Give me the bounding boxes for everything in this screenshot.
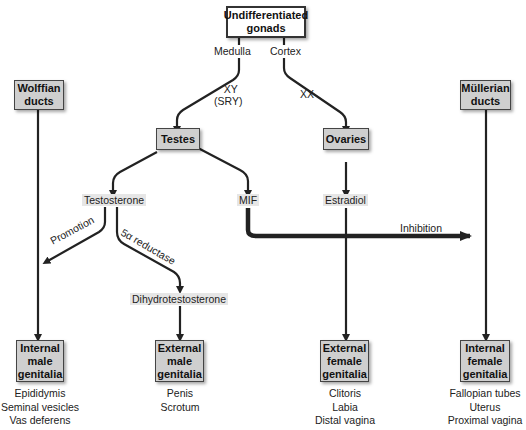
list-item: Distal vagina <box>305 414 385 428</box>
box-line: Internal <box>465 342 505 355</box>
internal-female-genitalia-box: Internal female genitalia <box>460 340 510 382</box>
box-line: female <box>468 355 503 368</box>
list-item: Labia <box>305 401 385 415</box>
mullerian-ducts-box: Müllerian ducts <box>460 80 511 110</box>
external-male-list: Penis Scrotum <box>140 387 220 414</box>
box-line: gonads <box>246 22 285 35</box>
ovaries-box: Ovaries <box>323 128 369 150</box>
box-line: male <box>27 355 52 368</box>
box-line: male <box>167 355 192 368</box>
box-line: External <box>323 342 366 355</box>
list-item: Proximal vagina <box>440 414 526 428</box>
testosterone-label: Testosterone <box>82 194 146 206</box>
list-item: Uterus <box>440 401 526 415</box>
xx-label: XX <box>300 88 314 100</box>
xy-label: XY (SRY) <box>214 83 242 107</box>
box-line: genitalia <box>18 368 63 381</box>
dht-label: Dihydrotestosterone <box>130 293 228 305</box>
box-line: genitalia <box>157 368 202 381</box>
mif-label: MIF <box>237 194 259 206</box>
list-item: Fallopian tubes <box>440 387 526 401</box>
wolffian-ducts-box: Wolffian ducts <box>14 80 64 110</box>
medulla-label: Medulla <box>214 45 251 57</box>
external-female-list: Clitoris Labia Distal vagina <box>305 387 385 428</box>
box-line: Wolffian <box>17 82 60 95</box>
list-item: Penis <box>140 387 220 401</box>
box-line: Müllerian <box>461 82 509 95</box>
box-line: External <box>158 342 201 355</box>
diagram-connectors <box>0 0 526 430</box>
inhibition-label: Inhibition <box>400 222 442 234</box>
testes-box: Testes <box>156 128 200 150</box>
box-line: ducts <box>24 95 53 108</box>
internal-male-list: Epididymis Seminal vesicles Vas deferens <box>0 387 80 428</box>
box-line: ducts <box>471 95 500 108</box>
internal-female-list: Fallopian tubes Uterus Proximal vagina <box>440 387 526 428</box>
sry-text: (SRY) <box>214 95 242 107</box>
list-item: Vas deferens <box>0 414 80 428</box>
undifferentiated-gonads-box: Undifferentiated gonads <box>226 6 306 38</box>
list-item: Seminal vesicles <box>0 401 80 415</box>
external-male-genitalia-box: External male genitalia <box>155 340 204 382</box>
estradiol-label: Estradiol <box>323 194 368 206</box>
box-line: genitalia <box>463 368 508 381</box>
list-item: Clitoris <box>305 387 385 401</box>
list-item: Epididymis <box>0 387 80 401</box>
external-female-genitalia-box: External female genitalia <box>320 340 369 382</box>
box-line: Undifferentiated <box>224 9 308 22</box>
box-line: Internal <box>20 342 60 355</box>
xy-text: XY <box>214 83 242 95</box>
box-line: genitalia <box>322 368 367 381</box>
internal-male-genitalia-box: Internal male genitalia <box>16 340 64 382</box>
list-item: Scrotum <box>140 401 220 415</box>
box-line: female <box>327 355 362 368</box>
cortex-label: Cortex <box>270 45 301 57</box>
